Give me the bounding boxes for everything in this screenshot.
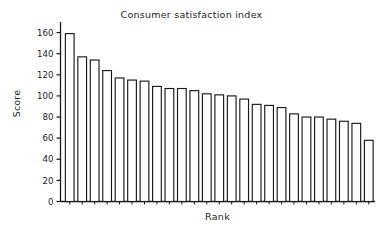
bar bbox=[202, 94, 211, 202]
bar bbox=[227, 96, 236, 202]
y-tick-label: 80 bbox=[43, 112, 54, 122]
y-tick-label: 40 bbox=[43, 154, 54, 164]
bar bbox=[90, 60, 99, 201]
chart-figure: Consumer satisfaction index Score Rank 0… bbox=[0, 0, 383, 231]
bar bbox=[178, 89, 187, 202]
bar bbox=[65, 34, 74, 202]
bar bbox=[128, 80, 137, 201]
bar bbox=[252, 104, 261, 201]
bar bbox=[190, 91, 199, 202]
bar bbox=[153, 86, 162, 201]
bar bbox=[140, 81, 149, 201]
bar bbox=[240, 99, 249, 201]
bar bbox=[352, 123, 361, 201]
bar bbox=[364, 140, 373, 201]
y-tick-label: 100 bbox=[37, 91, 53, 101]
bar bbox=[277, 108, 286, 202]
bar bbox=[165, 89, 174, 202]
bar bbox=[290, 114, 299, 202]
bar bbox=[327, 119, 336, 201]
bar bbox=[115, 78, 124, 202]
bar bbox=[215, 95, 224, 202]
bar bbox=[265, 105, 274, 201]
bar bbox=[339, 121, 348, 201]
bar bbox=[302, 117, 311, 201]
bar bbox=[78, 57, 87, 202]
bar bbox=[103, 71, 112, 202]
y-axis-ticks: 020406080100120140160 bbox=[37, 28, 60, 207]
y-tick-label: 20 bbox=[43, 176, 54, 186]
y-tick-label: 60 bbox=[43, 133, 54, 143]
y-tick-label: 0 bbox=[48, 197, 53, 207]
chart-plot-area: 020406080100120140160 bbox=[0, 0, 383, 231]
y-tick-label: 120 bbox=[37, 70, 53, 80]
bar-series bbox=[65, 34, 373, 205]
bar bbox=[315, 117, 324, 201]
y-tick-label: 160 bbox=[37, 28, 53, 38]
y-tick-label: 140 bbox=[37, 49, 53, 59]
